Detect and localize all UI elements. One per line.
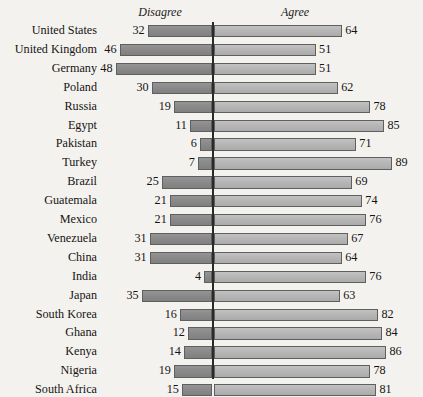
value-label-agree: 64 [345, 23, 357, 38]
country-label: Poland [63, 80, 97, 95]
value-label-agree: 62 [341, 80, 353, 95]
value-label-agree: 78 [373, 99, 385, 114]
value-label-agree: 82 [381, 307, 393, 322]
bar-disagree [170, 195, 212, 207]
bar-disagree [162, 176, 212, 188]
country-label: South Korea [36, 307, 97, 322]
chart-row: Turkey789 [0, 157, 423, 170]
value-label-disagree: 48 [100, 61, 112, 76]
value-label-disagree: 25 [147, 174, 159, 189]
value-label-disagree: 30 [137, 80, 149, 95]
value-label-disagree: 21 [155, 212, 167, 227]
bar-agree [214, 327, 383, 339]
country-label: Pakistan [56, 136, 97, 151]
chart-row: Kenya1486 [0, 346, 423, 359]
bar-disagree [174, 365, 212, 377]
country-label: Guatemala [44, 193, 97, 208]
chart-row: Germany4851 [0, 63, 423, 76]
bar-disagree [116, 63, 212, 75]
value-label-agree: 78 [373, 363, 385, 378]
value-label-agree: 84 [385, 325, 397, 340]
value-label-disagree: 15 [167, 382, 179, 397]
bar-agree [214, 138, 357, 150]
value-label-disagree: 7 [189, 155, 195, 170]
chart-row: United Kingdom4651 [0, 44, 423, 57]
country-label: Venezuela [47, 231, 97, 246]
value-label-agree: 69 [355, 174, 367, 189]
value-label-agree: 63 [343, 288, 355, 303]
chart-row: South Korea1682 [0, 309, 423, 322]
bar-agree [214, 346, 387, 358]
bar-disagree [170, 214, 212, 226]
chart-row: Poland3062 [0, 82, 423, 95]
value-label-agree: 86 [389, 344, 401, 359]
bar-agree [214, 233, 349, 245]
value-label-agree: 76 [369, 269, 381, 284]
bar-disagree [204, 271, 212, 283]
bar-agree [214, 290, 341, 302]
value-label-disagree: 19 [159, 363, 171, 378]
value-label-disagree: 4 [195, 269, 201, 284]
chart-row: Egypt1185 [0, 120, 423, 133]
country-label: Nigeria [60, 363, 97, 378]
bar-agree [214, 252, 343, 264]
chart-row: Guatemala2174 [0, 195, 423, 208]
value-label-disagree: 6 [191, 136, 197, 151]
country-label: Germany [52, 61, 97, 76]
bar-disagree [120, 44, 212, 56]
bar-disagree [150, 233, 212, 245]
bar-disagree [182, 384, 212, 396]
bar-agree [214, 25, 343, 37]
bar-agree [214, 214, 367, 226]
value-label-agree: 89 [395, 155, 407, 170]
bar-disagree [152, 82, 212, 94]
bar-agree [214, 63, 317, 75]
bar-agree [214, 157, 393, 169]
country-label: Kenya [65, 344, 97, 359]
bar-agree [214, 365, 371, 377]
country-label: Brazil [67, 174, 97, 189]
country-label: United States [32, 23, 97, 38]
bar-agree [214, 44, 317, 56]
country-label: Ghana [65, 325, 97, 340]
chart-row: Venezuela3167 [0, 233, 423, 246]
value-label-disagree: 21 [155, 193, 167, 208]
bar-agree [214, 309, 379, 321]
value-label-agree: 51 [319, 61, 331, 76]
chart-row: China3164 [0, 252, 423, 265]
value-label-agree: 71 [359, 136, 371, 151]
value-label-disagree: 31 [135, 231, 147, 246]
chart-row: India476 [0, 271, 423, 284]
bar-disagree [180, 309, 212, 321]
bar-agree [214, 176, 353, 188]
bar-agree [214, 384, 377, 396]
bar-disagree [150, 252, 212, 264]
bar-disagree [188, 327, 212, 339]
chart-row: South Africa1581 [0, 384, 423, 397]
chart-row: Pakistan671 [0, 138, 423, 151]
value-label-disagree: 11 [175, 118, 187, 133]
bar-disagree [142, 290, 212, 302]
country-label: Russia [64, 99, 97, 114]
value-label-disagree: 14 [169, 344, 181, 359]
value-label-disagree: 12 [173, 325, 185, 340]
chart-row: Ghana1284 [0, 327, 423, 340]
value-label-agree: 67 [351, 231, 363, 246]
value-label-disagree: 16 [165, 307, 177, 322]
country-label: China [68, 250, 97, 265]
value-label-disagree: 46 [104, 42, 116, 57]
country-label: Japan [69, 288, 97, 303]
value-label-disagree: 31 [135, 250, 147, 265]
country-label: Egypt [68, 118, 97, 133]
column-header-agree: Agree [281, 5, 309, 20]
value-label-agree: 76 [369, 212, 381, 227]
country-label: Turkey [62, 155, 97, 170]
bar-disagree [184, 346, 212, 358]
value-label-agree: 64 [345, 250, 357, 265]
chart-row: United States3264 [0, 25, 423, 38]
chart-row: Russia1978 [0, 101, 423, 114]
country-label: India [72, 269, 97, 284]
bar-agree [214, 195, 363, 207]
bar-disagree [174, 101, 212, 113]
